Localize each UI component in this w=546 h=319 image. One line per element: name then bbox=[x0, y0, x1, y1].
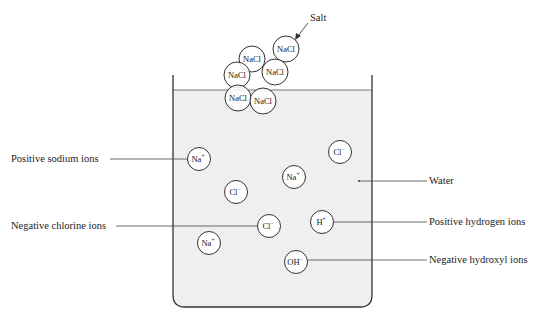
nacl-molecule: NaCl bbox=[224, 62, 250, 88]
ion-cl-negative: Cl− bbox=[329, 141, 352, 164]
nacl-molecule: NaCl bbox=[273, 36, 299, 62]
svg-text:NaCl: NaCl bbox=[228, 70, 247, 80]
label-water: Water bbox=[429, 175, 454, 186]
salt-dissolution-diagram: Salt NaClNaClNaClNaClNaClNaCl Na+Cl−Na+C… bbox=[0, 0, 546, 319]
ion-na-positive: Na+ bbox=[198, 232, 221, 255]
svg-text:NaCl: NaCl bbox=[254, 96, 273, 106]
water-pointer-dot bbox=[358, 180, 360, 182]
salt-label: Salt bbox=[310, 12, 326, 23]
ion-na-positive: Na+ bbox=[188, 148, 211, 171]
nacl-molecule: NaCl bbox=[225, 85, 251, 111]
water-fill bbox=[173, 90, 372, 307]
salt-arrow-icon bbox=[295, 23, 308, 40]
ion-cl-negative: Cl− bbox=[225, 181, 248, 204]
svg-text:NaCl: NaCl bbox=[277, 44, 296, 54]
nacl-molecule: NaCl bbox=[262, 59, 288, 85]
nacl-molecule: NaCl bbox=[250, 88, 276, 114]
label-positive-hydrogen-ions: Positive hydrogen ions bbox=[429, 216, 525, 227]
svg-text:NaCl: NaCl bbox=[229, 93, 248, 103]
svg-text:NaCl: NaCl bbox=[243, 54, 262, 64]
ion-cl-negative: Cl− bbox=[258, 215, 281, 238]
label-negative-chlorine-ions: Negative chlorine ions bbox=[11, 220, 106, 231]
label-negative-hydroxyl-ions: Negative hydroxyl ions bbox=[429, 254, 528, 265]
label-positive-sodium-ions: Positive sodium ions bbox=[11, 153, 99, 164]
ion-h-positive: H+ bbox=[311, 211, 334, 234]
ion-na-positive: Na+ bbox=[283, 166, 306, 189]
ion-oh-negative: OH− bbox=[285, 251, 308, 274]
svg-text:NaCl: NaCl bbox=[266, 67, 285, 77]
